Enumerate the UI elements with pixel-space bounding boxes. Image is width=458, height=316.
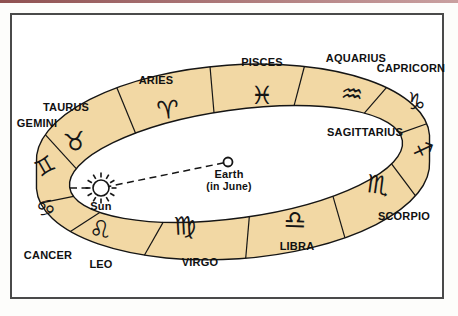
libra-icon: ♎ bbox=[283, 205, 306, 235]
taurus-label: TAURUS bbox=[43, 101, 89, 113]
zodiac-diagram: ♊♉♈♓♒♑♐♏♎♍♌♋GEMINITAURUSARIESPISCESAQUAR… bbox=[0, 0, 458, 316]
aries-icon: ♈ bbox=[156, 95, 181, 126]
earth-sublabel: (in June) bbox=[206, 180, 252, 192]
earth-marker bbox=[224, 158, 233, 167]
pisces-label: PISCES bbox=[241, 56, 283, 68]
scorpio-label: SCORPIO bbox=[378, 210, 430, 222]
capricorn-icon: ♑ bbox=[403, 87, 430, 117]
leo-icon: ♌ bbox=[87, 214, 113, 246]
cancer-label: CANCER bbox=[24, 249, 72, 261]
sun-label: Sun bbox=[90, 200, 111, 212]
aries-label: ARIES bbox=[139, 74, 174, 86]
libra-label: LIBRA bbox=[280, 240, 315, 252]
leo-label: LEO bbox=[89, 258, 112, 270]
scorpio-icon: ♏ bbox=[365, 169, 391, 201]
capricorn-label: CAPRICORN bbox=[377, 62, 445, 74]
pisces-icon: ♓ bbox=[251, 81, 273, 110]
earth-label: Earth bbox=[214, 168, 243, 180]
aquarius-icon: ♒ bbox=[340, 79, 365, 110]
gemini-label: GEMINI bbox=[17, 117, 57, 129]
virgo-icon: ♍ bbox=[173, 211, 197, 241]
sagittarius-label: SAGITTARIUS bbox=[327, 126, 403, 138]
virgo-label: VIRGO bbox=[182, 256, 219, 268]
